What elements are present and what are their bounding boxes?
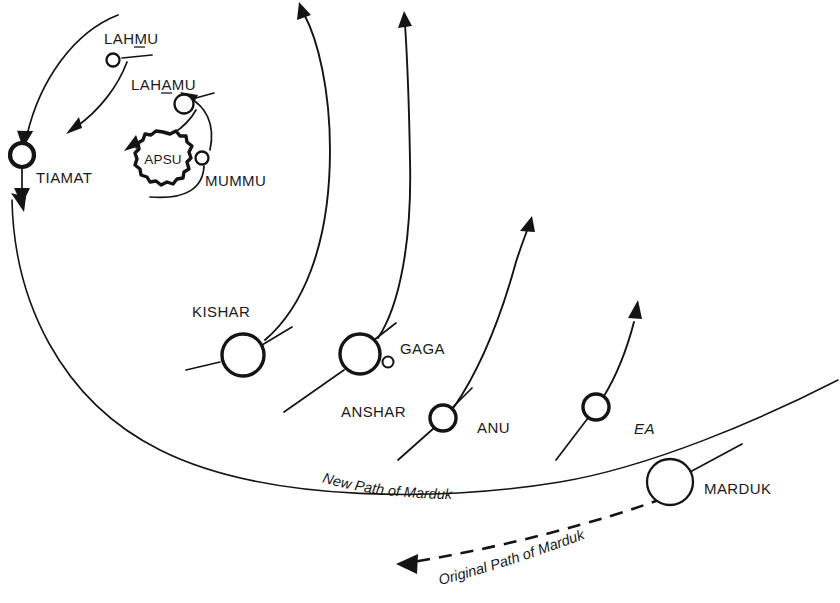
planet-circle-ea[interactable] — [583, 394, 609, 420]
anu-spoke-right — [452, 388, 472, 408]
label-original-path-of-marduk: Original Path of Marduk — [437, 526, 587, 588]
planet-circle-anshar[interactable] — [340, 334, 380, 374]
planet-circle-mummu[interactable] — [196, 152, 209, 165]
anshar-trajectory-arc — [378, 24, 410, 338]
planet-circle-tiamat[interactable] — [10, 143, 34, 167]
planet-circle-anu[interactable] — [430, 405, 456, 431]
lahmu-spoke — [122, 55, 152, 58]
kishar-trajectory-arrowhead-icon — [297, 2, 311, 20]
label-new-path-of-marduk: New Path of Marduk — [321, 470, 453, 503]
label-kishar: KISHAR — [192, 303, 250, 320]
label-lahamu: LAHAMU — [131, 76, 196, 93]
anu-trajectory-arc — [454, 228, 528, 407]
marduk-spoke-upper — [690, 444, 742, 472]
label-apsu: APSU — [144, 152, 182, 167]
label-lahmu: LAHMU — [104, 30, 159, 47]
anshar-spoke-left — [284, 370, 344, 412]
label-mummu: MUMMU — [205, 172, 266, 189]
label-ea: EA — [634, 420, 655, 437]
kishar-spoke-left — [186, 362, 220, 370]
planet-circle-marduk[interactable] — [647, 459, 693, 505]
planet-circle-lahmu[interactable] — [107, 54, 120, 67]
lahmu-orbit-arc — [76, 62, 127, 127]
kishar-trajectory-arc — [265, 14, 330, 340]
diagram-canvas: APSU TIAMAT LAHMU LAHAMU MUMMU KISHAR AN… — [0, 0, 840, 603]
anshar-trajectory-arrowhead-icon — [398, 11, 412, 28]
label-gaga: GAGA — [400, 340, 445, 357]
lahmu-orbit-arrowhead-icon — [66, 117, 82, 134]
solar-system-formation-diagram: APSU TIAMAT LAHMU LAHAMU MUMMU KISHAR AN… — [0, 0, 840, 603]
label-tiamat: TIAMAT — [36, 169, 92, 186]
anu-trajectory-arrowhead-icon — [520, 216, 535, 232]
planet-circle-kishar[interactable] — [222, 334, 264, 376]
ea-spoke-left — [556, 418, 588, 460]
label-anshar: ANSHAR — [341, 403, 406, 420]
original-path-textpath: Original Path of Marduk — [437, 526, 587, 588]
planet-circle-gaga[interactable] — [383, 357, 394, 368]
anu-spoke-left — [398, 428, 434, 460]
new-path-textpath: New Path of Marduk — [321, 470, 453, 503]
label-anu: ANU — [477, 419, 510, 436]
ea-trajectory-arc — [604, 322, 634, 396]
label-marduk: MARDUK — [704, 480, 771, 497]
ea-trajectory-arrowhead-icon — [628, 300, 642, 319]
planet-circle-lahamu[interactable] — [175, 95, 194, 114]
original-path-arrowhead-icon — [396, 554, 418, 574]
